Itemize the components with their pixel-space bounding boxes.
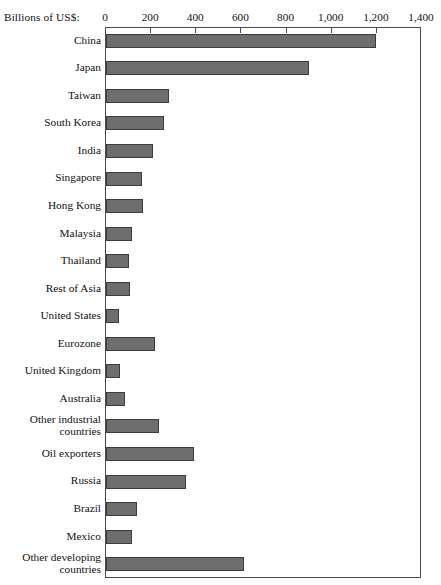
category-label: Thailand (0, 254, 101, 266)
bar (106, 61, 309, 75)
bar (106, 116, 164, 130)
category-label: Malaysia (0, 227, 101, 239)
category-label: Brazil (0, 502, 101, 514)
bar (106, 557, 244, 571)
bar (106, 172, 142, 186)
category-label: China (0, 34, 101, 46)
category-label: South Korea (0, 116, 101, 128)
bar (106, 144, 153, 158)
bars-layer (106, 28, 420, 577)
category-label: Russia (0, 474, 101, 486)
bar (106, 282, 130, 296)
category-label: Rest of Asia (0, 282, 101, 294)
category-label: United Kingdom (0, 364, 101, 376)
bar (106, 337, 155, 351)
bar (106, 199, 143, 213)
x-tick-label: 600 (232, 11, 249, 23)
category-axis-labels: ChinaJapanTaiwanSouth KoreaIndiaSingapor… (0, 27, 101, 578)
bar (106, 89, 169, 103)
bar (106, 419, 159, 433)
category-label: Hong Kong (0, 199, 101, 211)
category-label: India (0, 144, 101, 156)
x-tick-label: 0 (102, 11, 108, 23)
bar (106, 227, 132, 241)
bar (106, 254, 129, 268)
category-label: Australia (0, 392, 101, 404)
category-label: United States (0, 309, 101, 321)
category-label: Taiwan (0, 89, 101, 101)
bar (106, 364, 120, 378)
x-tick-label: 200 (142, 11, 159, 23)
bar (106, 309, 119, 323)
category-label: Japan (0, 61, 101, 73)
category-label: Singapore (0, 171, 101, 183)
bar (106, 447, 194, 461)
x-tick-label: 800 (277, 11, 294, 23)
x-tick-label: 1,000 (318, 11, 343, 23)
category-label: Other developing countries (0, 551, 101, 575)
x-tick-label: 1,400 (408, 11, 433, 23)
bar (106, 530, 132, 544)
bar (106, 502, 137, 516)
category-label: Eurozone (0, 337, 101, 349)
x-axis-tick-labels: 02004006008001,0001,2001,400 (0, 11, 441, 26)
bar (106, 475, 186, 489)
x-tick-label: 1,200 (363, 11, 388, 23)
bar (106, 392, 125, 406)
x-tick-label: 400 (187, 11, 204, 23)
bar-chart: Billions of US$: 02004006008001,0001,200… (0, 0, 441, 585)
category-label: Mexico (0, 530, 101, 542)
bar (106, 34, 376, 48)
category-label: Other industrial countries (0, 413, 101, 437)
category-label: Oil exporters (0, 447, 101, 459)
